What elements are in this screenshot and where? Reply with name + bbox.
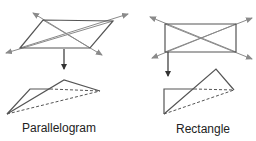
parallelogram-label: Parallelogram bbox=[22, 121, 96, 135]
fold-line-dashed bbox=[164, 90, 234, 114]
fold-line-dashed bbox=[7, 91, 100, 114]
quadrilateral-fold-diagram bbox=[0, 0, 256, 141]
folded-edge bbox=[164, 69, 234, 114]
diagonal-arrow bbox=[150, 17, 236, 52]
fold-line-dashed bbox=[194, 89, 234, 90]
parallelogram-figure bbox=[6, 13, 128, 114]
diagonal-arrow bbox=[165, 24, 252, 59]
rectangle-figure bbox=[150, 17, 252, 114]
diagonal-arrow bbox=[20, 14, 128, 48]
rectangle-label: Rectangle bbox=[176, 122, 230, 136]
folded-edge bbox=[7, 80, 100, 114]
